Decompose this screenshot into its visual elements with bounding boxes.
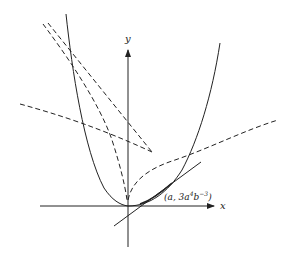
diagram-canvas: x y (a, 3a4b−3) [0, 0, 290, 257]
dashed-line-left [20, 104, 152, 152]
dashed-curve-left-inner [43, 24, 127, 200]
x-axis-label: x [220, 200, 226, 211]
point-label: (a, 3a4b−3) [164, 190, 212, 202]
y-axis-label: y [124, 33, 131, 44]
dashed-line-upper [48, 23, 152, 152]
parabola-curve [66, 14, 220, 206]
dashed-curve-right [128, 120, 278, 200]
